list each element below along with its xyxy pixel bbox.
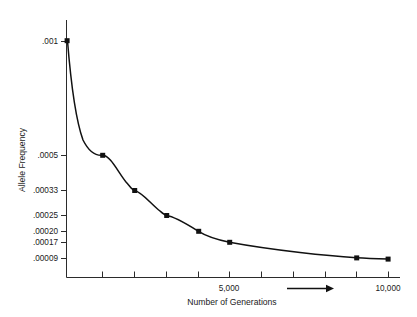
y-axis-tick-labels: .001 .0005 .00033 .00025 .00020 .00017 .… — [33, 37, 58, 263]
data-point — [65, 38, 70, 43]
x-tick-label: 10,000 — [375, 284, 400, 293]
y-tick-label: .00025 — [33, 211, 58, 220]
data-point — [132, 188, 137, 193]
data-point — [196, 229, 201, 234]
data-point-markers — [65, 38, 391, 261]
chart-canvas: .001 .0005 .00033 .00025 .00020 .00017 .… — [0, 0, 417, 317]
y-tick-label: .00020 — [33, 227, 58, 236]
y-tick-label: .00017 — [33, 238, 58, 247]
right-arrow-head-icon — [326, 285, 334, 292]
x-axis-title: Number of Generations — [187, 297, 276, 307]
allele-frequency-curve — [68, 41, 389, 259]
x-tick-label: 5,000 — [219, 284, 240, 293]
data-point — [164, 213, 169, 218]
y-tick-label: .001 — [42, 37, 58, 46]
x-axis-ticks — [103, 272, 389, 278]
data-point — [100, 153, 105, 158]
y-axis-ticks — [61, 42, 67, 259]
y-tick-label: .00009 — [33, 254, 58, 263]
y-axis-title: Allele Frequency — [17, 127, 27, 192]
data-point — [354, 255, 359, 260]
y-tick-label: .0005 — [38, 151, 59, 160]
data-point — [227, 240, 232, 245]
trend-arrow-annotation — [287, 285, 334, 292]
y-tick-label: .00033 — [33, 186, 58, 195]
data-point — [386, 257, 391, 262]
chart-figure: .001 .0005 .00033 .00025 .00020 .00017 .… — [0, 0, 417, 317]
